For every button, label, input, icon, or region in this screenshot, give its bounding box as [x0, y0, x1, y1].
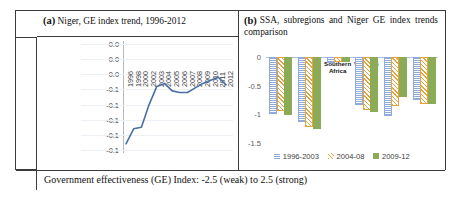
panel-b-legend-label: 2009-12	[382, 152, 410, 161]
panel-b-bar	[428, 57, 436, 104]
panel-b-legend-item: 2009-12	[373, 152, 409, 161]
panel-b-legend-swatch	[274, 153, 280, 159]
panel-b-legend-label: 1996-2003	[283, 152, 319, 161]
panel-b-y-tick: -0.5	[248, 81, 261, 90]
panel-b-bar-group: Central Africa	[266, 57, 295, 143]
panel-a-marker: (a)	[43, 15, 55, 26]
panel-b-legend-swatch	[373, 153, 379, 159]
panel-b-bar-group: Western Africa	[352, 57, 381, 143]
panel-b-legend: 1996-20032004-082009-12	[239, 149, 445, 163]
panel-a-line-chart: 0.00.00.0-0.1-0.1-0.1-0.1-0.1 1996199820…	[37, 37, 239, 170]
panel-b-y-tick: -1	[254, 110, 261, 119]
panel-b-bar	[284, 57, 292, 115]
panel-b-legend-swatch	[328, 153, 334, 159]
panel-b-legend-item: 2004-08	[328, 152, 364, 161]
panel-a-title: (a) Niger, GE index trend, 1996-2012	[37, 11, 239, 37]
panel-b-bar	[370, 57, 378, 112]
panel-b-plot-area: Central AfricaEastern AfricaSouthern Afr…	[266, 57, 438, 143]
panel-b-marker: (b)	[244, 15, 257, 27]
panel-b-bar	[399, 57, 407, 97]
panel-b-bar	[342, 57, 350, 62]
panel-b-bar-group: Eastern Africa	[295, 57, 324, 143]
panel-b-bar	[313, 57, 321, 129]
panel-b-y-tick: -1.5	[248, 139, 261, 148]
panel-b-y-tick: 0	[257, 53, 261, 62]
panel-b-title-text: SSA, subregions and Niger GE index trend…	[244, 15, 438, 37]
panel-a-trend-line	[125, 41, 233, 153]
figure-caption: Government effectiveness (GE) Index: -2.…	[37, 170, 445, 190]
ge-index-axis-strip: GE index	[16, 37, 37, 170]
panel-b-legend-item: 1996-2003	[274, 152, 319, 161]
panel-b-bar-group: SSA	[409, 57, 438, 143]
panel-b-y-axis: 0-0.5-1-1.5	[239, 57, 263, 143]
panel-a-plot-area: 0.00.00.0-0.1-0.1-0.1-0.1-0.1 1996199820…	[81, 41, 233, 153]
caption-left-cell	[16, 170, 37, 190]
panel-a-title-text: Niger, GE index trend, 1996-2012	[58, 16, 186, 26]
panel-b-bar-group: Southern Africa	[323, 57, 352, 143]
panel-b-bar-chart: 0-0.5-1-1.5 Central AfricaEastern Africa…	[239, 51, 445, 170]
panel-b-legend-label: 2004-08	[337, 152, 365, 161]
figure-container: GE index (a) Niger, GE index trend, 1996…	[15, 10, 446, 170]
panel-b-bar-group: Niger	[381, 57, 410, 143]
